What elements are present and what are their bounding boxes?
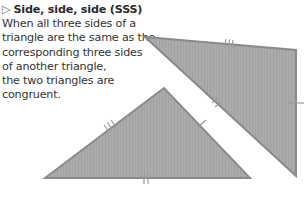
triangles-diagram [0, 0, 304, 198]
